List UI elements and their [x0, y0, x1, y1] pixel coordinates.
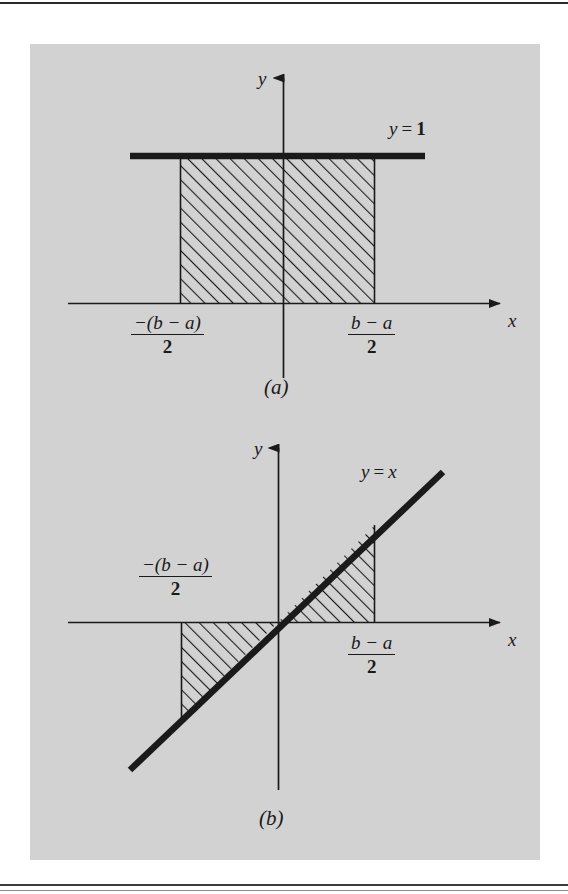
panel-b-curve-y-equals-x — [130, 472, 443, 770]
panel-a-tick-left-denominator: 2 — [131, 335, 204, 357]
panel-b-shaded-region-right — [278, 525, 375, 622]
panel-a-x-axis-label: x — [508, 310, 516, 332]
panel-a-curve-label-eq: = — [401, 118, 412, 139]
panel-a-curve-label-value: 1 — [416, 118, 426, 139]
panel-b-curve-label-var: y — [361, 461, 369, 482]
figure-graphics — [0, 0, 568, 894]
panel-a-tick-left: −(b − a) 2 — [131, 312, 204, 358]
panel-b-tick-right: b − a 2 — [348, 632, 395, 678]
panel-a-tick-right: b − a 2 — [348, 312, 395, 358]
panel-b-tick-right-numerator: b − a — [348, 632, 395, 655]
panel-b-tick-left: −(b − a) 2 — [139, 554, 212, 600]
panel-a-shaded-region — [180, 157, 375, 303]
panel-b-graphics — [68, 448, 500, 790]
panel-a-tick-left-numerator: −(b − a) — [131, 312, 204, 335]
panel-b-caption: (b) — [259, 806, 284, 831]
panel-a-y-axis-label: y — [258, 68, 266, 90]
panel-b-curve-label: y=x — [361, 461, 397, 483]
panel-b-tick-left-denominator: 2 — [139, 577, 212, 599]
panel-b-x-axis-label: x — [508, 629, 516, 651]
panel-a-caption: (a) — [264, 375, 289, 400]
panel-a-tick-right-numerator: b − a — [348, 312, 395, 335]
panel-b-curve-label-eq: = — [373, 461, 384, 482]
bottom-rule — [0, 884, 568, 886]
figure-page: y=1 y x −(b − a) 2 b − a 2 (a) y=x y x −… — [0, 0, 568, 894]
panel-a-curve-label-var: y — [389, 118, 397, 139]
panel-a-curve-label: y=1 — [389, 118, 426, 140]
panel-a-tick-right-denominator: 2 — [348, 335, 395, 357]
panel-b-tick-left-numerator: −(b − a) — [139, 554, 212, 577]
panel-b-tick-right-denominator: 2 — [348, 655, 395, 677]
panel-b-curve-label-value: x — [388, 461, 396, 482]
panel-b-y-axis-label: y — [254, 438, 262, 460]
bottom-rule-secondary — [0, 890, 568, 891]
